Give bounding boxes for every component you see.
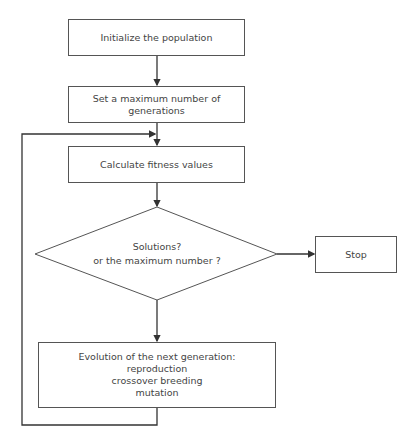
fitness-label: Calculate fitness values	[100, 159, 213, 171]
stop-label: Stop	[345, 249, 367, 261]
decision-line1: Solutions?	[77, 240, 237, 254]
evolution-step-mutation: mutation	[135, 387, 178, 399]
fitness-box: Calculate fitness values	[68, 146, 245, 183]
evolution-title: Evolution of the next generation:	[78, 351, 235, 363]
decision-text: Solutions? or the maximum number ?	[77, 240, 237, 268]
evolution-step-crossover: crossover breeding	[112, 375, 203, 387]
evolution-step-reproduction: reproduction	[127, 363, 188, 375]
max-generations-box: Set a maximum number of generations	[68, 86, 245, 123]
stop-box: Stop	[315, 236, 397, 273]
max-generations-line2: generations	[128, 105, 185, 117]
evolution-box: Evolution of the next generation: reprod…	[38, 342, 276, 408]
max-generations-line1: Set a maximum number of	[93, 93, 221, 105]
init-population-box: Initialize the population	[68, 19, 245, 56]
init-population-label: Initialize the population	[101, 32, 213, 44]
decision-line2: or the maximum number ?	[77, 254, 237, 268]
